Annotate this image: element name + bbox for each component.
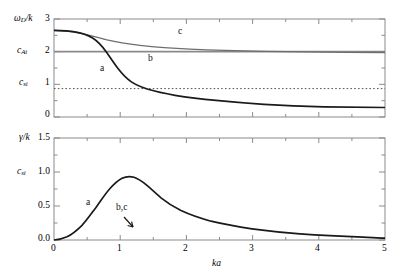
bottom-panel-plot (0, 130, 402, 273)
top-panel-plot (0, 0, 402, 130)
bottom-panel: γ/k 1.5 1.0 0.5 0.0 csi a b,c 0 1 2 3 4 … (0, 130, 402, 273)
curve-a-line (54, 30, 385, 107)
bc-annotation-arrow (124, 217, 133, 227)
top-panel: ωD/k 3 2 1 0 cAi csi a b c (0, 0, 402, 130)
figure: ωD/k 3 2 1 0 cAi csi a b c (0, 0, 402, 273)
curve-a-growth (54, 177, 385, 240)
